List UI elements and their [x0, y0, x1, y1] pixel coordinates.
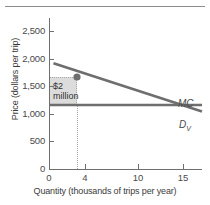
- x-tick-label-15: 15: [171, 172, 195, 183]
- y-tick-2500: [49, 31, 54, 32]
- demand-curve-label-sub: V: [186, 125, 191, 132]
- x-tick-label-10: 10: [126, 172, 150, 183]
- y-tick-label-500: 500: [30, 135, 45, 146]
- x-axis-title: Quantity (thousands of trips per year): [0, 186, 210, 196]
- y-tick-500: [49, 141, 54, 142]
- y-axis-line: [49, 18, 50, 170]
- x-tick-label-4: 4: [73, 172, 97, 183]
- y-tick-label-2500: 2,500: [22, 25, 45, 36]
- equilibrium-point-marker: [73, 73, 80, 80]
- y-tick-2000: [49, 59, 54, 60]
- y-tick-label-1500: 1,500: [22, 80, 45, 91]
- x-tick-4: [85, 164, 86, 170]
- x-axis-line: [49, 169, 202, 170]
- y-tick-1500: [49, 86, 54, 87]
- x-tick-10: [138, 164, 139, 170]
- y-axis-title: Price (dollars per trip): [10, 4, 20, 154]
- chart-figure: $2 million MC DV 2,500 2,000 1,500 1,000…: [0, 0, 210, 205]
- y-tick-1000: [49, 114, 54, 115]
- x-tick-label-0: 0: [37, 172, 61, 183]
- y-tick-label-1000: 1,000: [22, 108, 45, 119]
- y-tick-label-2000: 2,000: [22, 53, 45, 64]
- mc-curve-label: MC: [178, 98, 194, 109]
- x-tick-15: [183, 164, 184, 170]
- demand-curve-label: DV: [179, 119, 191, 132]
